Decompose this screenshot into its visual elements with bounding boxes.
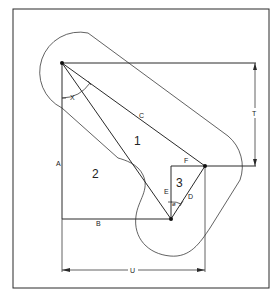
t-arrow-bottom-icon xyxy=(253,159,257,166)
label-t: T xyxy=(252,110,257,117)
diagram-canvas: X C T A B E F D U ø 1 2 3 xyxy=(0,0,278,300)
capsule-outline xyxy=(40,32,243,256)
outer-frame xyxy=(13,9,269,288)
region-3-label: 3 xyxy=(176,176,183,190)
label-f: F xyxy=(184,157,188,164)
region-1-label: 1 xyxy=(134,134,141,148)
t-arrow-top-icon xyxy=(253,63,257,70)
label-e: E xyxy=(164,188,169,195)
line-c xyxy=(62,63,205,166)
pivot-top-point xyxy=(60,61,64,65)
u-arrow-left-icon xyxy=(62,268,70,272)
label-x: X xyxy=(70,94,75,101)
region-2-label: 2 xyxy=(92,167,99,181)
label-phi: ø xyxy=(172,201,176,207)
pivot-right-point xyxy=(203,164,207,168)
label-u: U xyxy=(130,267,135,274)
angle-x-arc xyxy=(62,83,90,98)
label-c: C xyxy=(139,112,144,119)
diagonal-line xyxy=(62,63,171,219)
label-b: B xyxy=(96,220,101,227)
label-d: D xyxy=(188,193,193,200)
u-arrow-right-icon xyxy=(197,268,205,272)
label-a: A xyxy=(56,160,61,167)
pivot-bottom-point xyxy=(169,217,173,221)
